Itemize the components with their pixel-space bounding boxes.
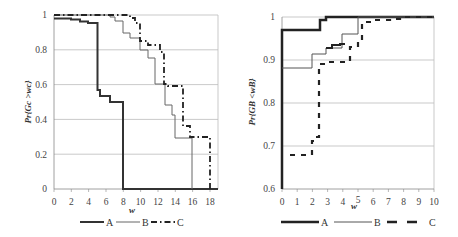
svg-text:8: 8 [401,197,406,207]
right-x-label: w [351,201,358,211]
svg-text:10: 10 [429,197,439,207]
svg-text:18: 18 [205,197,215,207]
legend-c-label: C [177,217,184,228]
left-legend: A B C [80,217,184,228]
right-x-ticks: 0 1 2 3 4 5 6 7 8 9 10 [280,195,439,207]
legend-a-label: A [106,217,114,228]
left-x-label: w [129,205,136,215]
svg-text:0.8: 0.8 [263,98,275,108]
svg-text:0.6: 0.6 [35,80,47,90]
left-gridlines [54,15,218,189]
svg-text:1: 1 [295,197,300,207]
legend-b-label: B [374,217,381,228]
svg-text:8: 8 [121,197,126,207]
legend-a-label: A [321,217,329,228]
svg-text:4: 4 [86,197,91,207]
svg-text:1: 1 [270,12,275,22]
svg-text:14: 14 [171,197,181,207]
right-y-ticks: 0.6 0.7 0.8 0.9 1 [263,12,275,194]
left-chart: 0 0.2 0.4 0.6 0.8 1 0 2 4 6 8 10 12 14 1… [23,10,218,228]
svg-text:0.6: 0.6 [263,184,275,194]
svg-text:6: 6 [104,197,109,207]
svg-text:0.9: 0.9 [263,55,275,65]
figure: 0 0.2 0.4 0.6 0.8 1 0 2 4 6 8 10 12 14 1… [0,0,458,237]
left-y-label: Pr{Gc >wc} [23,80,33,124]
svg-text:0: 0 [52,197,57,207]
svg-text:9: 9 [416,197,421,207]
left-series-a [54,19,218,190]
svg-text:12: 12 [153,197,163,207]
legend-b-label: B [142,217,149,228]
svg-text:7: 7 [386,197,391,207]
svg-text:2: 2 [310,197,315,207]
right-legend: A B C [281,217,436,228]
svg-text:10: 10 [136,197,146,207]
svg-text:6: 6 [371,197,376,207]
svg-text:1: 1 [42,10,47,20]
left-y-ticks: 0 0.2 0.4 0.6 0.8 1 [35,10,47,194]
svg-text:0.4: 0.4 [35,115,47,125]
svg-text:2: 2 [69,197,74,207]
svg-text:0.8: 0.8 [35,45,47,55]
right-series-c [290,17,434,155]
svg-text:3: 3 [325,197,330,207]
right-chart: 0.6 0.7 0.8 0.9 1 0 1 2 3 4 5 6 7 8 9 10 [247,12,439,228]
svg-text:4: 4 [340,197,345,207]
svg-text:0.7: 0.7 [263,141,275,151]
legend-c-label: C [429,217,436,228]
left-series-c [54,15,210,189]
svg-text:16: 16 [188,197,198,207]
right-y-label: Pr{GB <wB} [247,78,257,126]
svg-text:0: 0 [42,184,47,194]
svg-text:0: 0 [280,197,285,207]
svg-text:0.2: 0.2 [35,150,47,160]
